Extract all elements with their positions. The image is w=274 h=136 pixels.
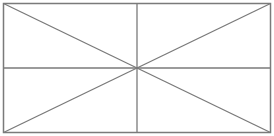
placeholder-svg bbox=[0, 0, 274, 136]
placeholder-figure bbox=[0, 0, 274, 136]
